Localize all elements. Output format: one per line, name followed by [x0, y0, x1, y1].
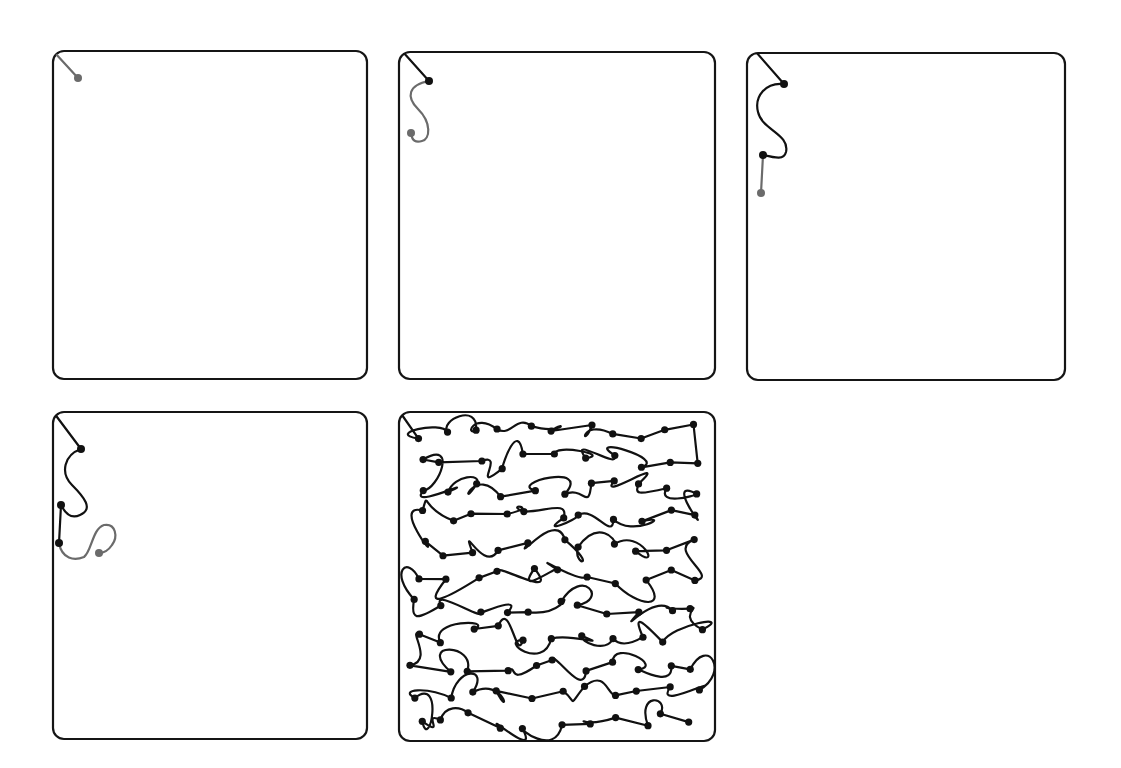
curve-node	[57, 501, 65, 509]
curve-node	[469, 549, 476, 556]
curve-node	[504, 609, 511, 616]
curve-node	[415, 575, 422, 582]
curve-node	[582, 454, 589, 461]
curve-node	[668, 662, 675, 669]
curve-node	[548, 635, 555, 642]
curve-node	[425, 77, 433, 85]
curve-node	[686, 605, 693, 612]
curve-node	[643, 576, 650, 583]
curve-node	[464, 709, 471, 716]
curve-node	[531, 565, 538, 572]
curve-node	[612, 580, 619, 587]
curve-node	[77, 445, 85, 453]
current-endpoint-node	[757, 189, 765, 197]
curve-node	[519, 450, 526, 457]
curve-node	[610, 516, 617, 523]
curve-node	[415, 435, 422, 442]
curve-node	[612, 714, 619, 721]
curve-node	[520, 508, 527, 515]
curve-node	[416, 631, 423, 638]
curve-node	[447, 668, 454, 675]
curve-node	[464, 668, 471, 675]
curve-node	[448, 694, 455, 701]
curve-node	[659, 639, 666, 646]
curve-node	[657, 710, 664, 717]
curve-node	[519, 725, 526, 732]
curve-node	[499, 465, 506, 472]
curve-node	[547, 427, 554, 434]
curve-node	[685, 718, 692, 725]
curve-node	[478, 457, 485, 464]
curve-node	[532, 487, 539, 494]
curve-node	[435, 459, 442, 466]
curve-node	[587, 720, 594, 727]
panel-final-dense-curve	[398, 411, 716, 742]
curve-node	[581, 683, 588, 690]
curve-node	[450, 517, 457, 524]
current-endpoint-node	[74, 74, 82, 82]
curve-node	[504, 510, 511, 517]
curve-node	[609, 659, 616, 666]
curve-node	[561, 491, 568, 498]
curve-node	[422, 538, 429, 545]
curve-node	[558, 721, 565, 728]
curve-node	[524, 539, 531, 546]
curve-node	[494, 547, 501, 554]
curve-node	[663, 485, 670, 492]
curve-node	[558, 598, 565, 605]
curve-node	[406, 662, 413, 669]
curve-node	[668, 506, 675, 513]
curve-node	[633, 687, 640, 694]
curve-node	[582, 667, 589, 674]
curve-node	[476, 574, 483, 581]
panel-frame	[53, 51, 367, 379]
curve-node	[669, 607, 676, 614]
panel-frame	[747, 53, 1065, 380]
curve-node	[574, 543, 581, 550]
curve-node	[578, 632, 585, 639]
curve-node	[694, 460, 701, 467]
current-endpoint-node	[95, 549, 103, 557]
curve-node	[528, 423, 535, 430]
curve-node	[419, 507, 426, 514]
curve-node	[663, 547, 670, 554]
curve-node	[638, 464, 645, 471]
curve-node	[690, 421, 697, 428]
curve-node	[612, 692, 619, 699]
curve-node	[667, 459, 674, 466]
curve-node	[635, 666, 642, 673]
curve-node	[667, 683, 674, 690]
curve-node	[411, 596, 418, 603]
curve-node	[533, 662, 540, 669]
curve-node	[693, 490, 700, 497]
curve-node	[560, 514, 567, 521]
curve-node	[495, 622, 502, 629]
curve-node	[528, 695, 535, 702]
curve-node	[497, 493, 504, 500]
curve-node	[574, 602, 581, 609]
curve-node	[442, 576, 449, 583]
curve-node	[611, 541, 618, 548]
curve-node	[584, 573, 591, 580]
curve-node	[635, 608, 642, 615]
curve-node	[638, 435, 645, 442]
curve-node	[696, 686, 703, 693]
curve-node	[575, 511, 582, 518]
curve-node	[609, 430, 616, 437]
curve-node	[472, 427, 479, 434]
curve-node	[419, 718, 426, 725]
panel-step-4	[52, 411, 368, 740]
curve-node	[588, 480, 595, 487]
curve-node	[691, 577, 698, 584]
curve-node	[635, 480, 642, 487]
curve-node	[473, 480, 480, 487]
curve-node	[420, 487, 427, 494]
curve-node	[519, 637, 526, 644]
curve-node	[419, 456, 426, 463]
curve-node	[691, 536, 698, 543]
curve-node	[411, 694, 418, 701]
curve-node	[554, 566, 561, 573]
curve-node	[603, 610, 610, 617]
curve-node	[469, 688, 476, 695]
curve-node	[549, 656, 556, 663]
